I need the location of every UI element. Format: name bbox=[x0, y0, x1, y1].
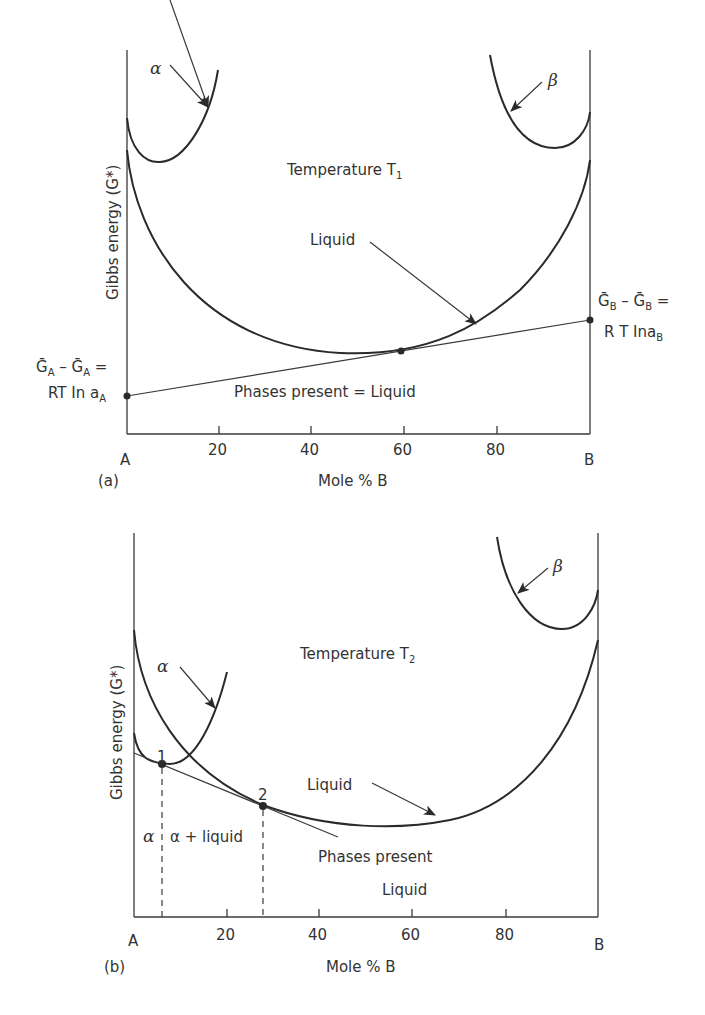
figure: α β Temperature T1 Liquid Phases present… bbox=[0, 0, 705, 1015]
tick-label-20-b: 20 bbox=[216, 926, 235, 944]
point-1-label: 1 bbox=[157, 748, 167, 766]
panel-a: α β Temperature T1 Liquid Phases present… bbox=[36, 0, 669, 490]
alpha-arrow-b bbox=[180, 667, 215, 708]
liquid-curve-a bbox=[127, 150, 590, 353]
tick-label-40-a: 40 bbox=[300, 441, 319, 459]
alpha-arrow-a bbox=[170, 0, 208, 107]
tangent-point-a bbox=[398, 348, 405, 355]
x-axis-label-b: Mole % B bbox=[326, 958, 396, 976]
left-equation-a-line1: ḠA – ḠA = bbox=[36, 358, 107, 378]
y-axis-label-a: Gibbs energy (G*) bbox=[104, 165, 122, 300]
liquid-arrow-b bbox=[372, 783, 435, 815]
panel-label-b: (b) bbox=[104, 958, 125, 976]
beta-label-b: β bbox=[552, 556, 563, 576]
point-2-label: 2 bbox=[258, 786, 268, 804]
tick-label-60-a: 60 bbox=[393, 441, 412, 459]
tick-label-20-a: 20 bbox=[208, 441, 227, 459]
intercept-a-right bbox=[587, 317, 594, 324]
beta-label-a: β bbox=[547, 70, 558, 90]
phases-label-a: Phases present = Liquid bbox=[234, 383, 416, 401]
title-a: Temperature T1 bbox=[286, 161, 402, 181]
region-two-phase-label: α + liquid bbox=[170, 828, 243, 846]
intercept-a-left bbox=[124, 393, 131, 400]
tick-label-40-b: 40 bbox=[308, 926, 327, 944]
panel-label-a: (a) bbox=[98, 472, 119, 490]
title-b: Temperature T2 bbox=[299, 645, 415, 665]
alpha-label-b: α bbox=[157, 656, 169, 676]
region-alpha-label: α bbox=[143, 826, 155, 846]
phases-value-b: Liquid bbox=[382, 881, 427, 899]
end-label-A-a: A bbox=[120, 451, 131, 469]
right-equation-a-line1: ḠB – ḠB = bbox=[598, 292, 669, 312]
beta-arrow-a bbox=[511, 82, 542, 111]
phases-label-b: Phases present bbox=[318, 848, 433, 866]
tick-label-60-b: 60 bbox=[401, 926, 420, 944]
alpha-label-a: α bbox=[150, 58, 162, 78]
x-axis-label-a: Mole % B bbox=[318, 472, 388, 490]
beta-curve-b bbox=[497, 537, 598, 629]
beta-curve-a bbox=[490, 55, 590, 148]
liquid-label-b: Liquid bbox=[307, 776, 352, 794]
left-equation-a-line2: RT In aA bbox=[48, 384, 106, 404]
right-equation-a-line2: R T InaB bbox=[604, 323, 663, 343]
tick-label-80-b: 80 bbox=[495, 926, 514, 944]
alpha-arrow-a2 bbox=[170, 65, 208, 107]
beta-arrow-b bbox=[518, 568, 548, 593]
alpha-curve-a bbox=[127, 70, 218, 162]
tick-label-80-a: 80 bbox=[486, 441, 505, 459]
alpha-curve-b bbox=[134, 672, 227, 764]
end-label-B-a: B bbox=[584, 451, 594, 469]
panel-b: α β Temperature T2 Liquid 1 2 α α + liqu… bbox=[104, 533, 604, 976]
liquid-label-a: Liquid bbox=[310, 231, 355, 249]
end-label-A-b: A bbox=[128, 932, 139, 950]
liquid-arrow-a bbox=[370, 242, 476, 324]
end-label-B-b: B bbox=[594, 936, 604, 954]
y-axis-label-b: Gibbs energy (G*) bbox=[108, 665, 126, 800]
